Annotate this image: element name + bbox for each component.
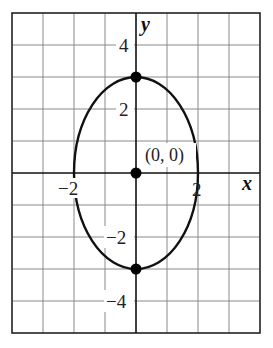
x-axis-label: x bbox=[241, 172, 252, 194]
x-tick-label-neg2: −2 bbox=[58, 178, 78, 199]
x-tick-label-2: 2 bbox=[192, 179, 202, 200]
point-top-vertex bbox=[131, 72, 142, 83]
y-tick-label-neg2: −2 bbox=[106, 227, 126, 248]
y-tick-label-neg4: −4 bbox=[106, 291, 127, 312]
y-tick-label-4: 4 bbox=[119, 35, 129, 56]
point-center bbox=[131, 168, 142, 179]
point-bottom-vertex bbox=[131, 264, 142, 275]
ellipse-graph: 4 2 −2 −4 (0, 0) −2 2 y x bbox=[0, 0, 273, 348]
y-tick-label-2: 2 bbox=[119, 99, 129, 120]
y-axis-label: y bbox=[139, 13, 150, 36]
center-point-label: (0, 0) bbox=[145, 145, 184, 166]
